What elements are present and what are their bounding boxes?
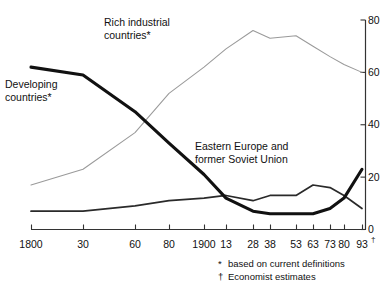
chart-container: 80 60 40 20 0 1800 30 60 80 1900 13 28 3… [0, 0, 388, 298]
chart-footnotes: * based on current definitions † Economi… [218, 258, 345, 283]
annotation-developing-line-1: Developing [5, 78, 58, 91]
x-tick-label-38: 38 [264, 238, 276, 250]
y-tick-label-60: 60 [368, 66, 380, 78]
x-tick-dagger-marker: † [371, 235, 375, 244]
footnote-dagger: † Economist estimates [218, 271, 345, 284]
annotation-eastern-line-2: former Soviet Union [195, 153, 288, 166]
y-tick-label-40: 40 [368, 118, 380, 130]
y-tick-label-80: 80 [368, 14, 380, 26]
x-tick-label-28: 28 [247, 238, 259, 250]
x-tick-label-13: 13 [220, 238, 232, 250]
x-tick-label-1800: 1800 [19, 238, 42, 250]
annotation-developing-line-2: countries* [5, 91, 58, 104]
x-axis-ticks [32, 225, 363, 230]
series-line-eastern-europe-soviet-union [31, 185, 362, 211]
annotation-eastern-line-1: Eastern Europe and [195, 140, 288, 153]
annotation-rich-line-2: countries* [104, 29, 170, 42]
y-tick-label-20: 20 [368, 171, 380, 183]
footnote-dagger-marker: † [218, 271, 228, 284]
y-tick-label-0: 0 [368, 223, 374, 235]
annotation-eastern-europe-soviet-union: Eastern Europe and former Soviet Union [195, 140, 288, 165]
y-axis-ticks [361, 20, 366, 230]
annotation-developing-countries: Developing countries* [5, 78, 58, 103]
footnote-asterisk-text: based on current definitions [228, 258, 345, 271]
x-tick-label-63: 63 [307, 238, 319, 250]
x-tick-label-30: 30 [77, 238, 89, 250]
annotation-rich-line-1: Rich industrial [104, 16, 170, 29]
x-tick-label-1900: 1900 [192, 238, 215, 250]
x-tick-label-80-second: 80 [338, 238, 350, 250]
annotation-rich-industrial-countries: Rich industrial countries* [104, 16, 170, 41]
x-tick-label-53: 53 [290, 238, 302, 250]
x-tick-label-73: 73 [324, 238, 336, 250]
footnote-asterisk-marker: * [218, 258, 228, 271]
footnote-dagger-text: Economist estimates [228, 271, 316, 284]
footnote-asterisk: * based on current definitions [218, 258, 345, 271]
x-tick-label-60: 60 [129, 238, 141, 250]
chart-plot-area [0, 0, 388, 298]
x-tick-label-80: 80 [163, 238, 175, 250]
x-tick-label-93: 93 [356, 238, 368, 250]
